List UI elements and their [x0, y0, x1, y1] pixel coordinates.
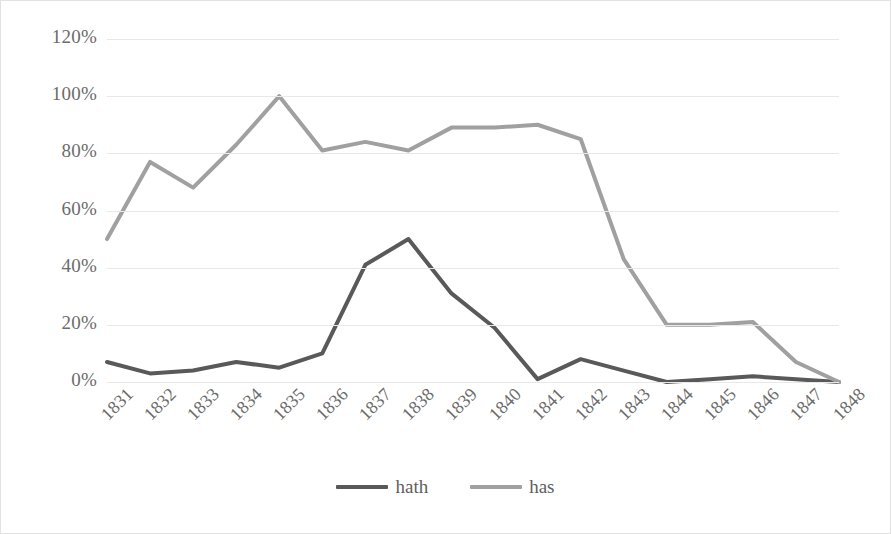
legend-item-has[interactable]: has — [470, 477, 554, 496]
gridline-20 — [107, 325, 839, 326]
chart-legend: hathhas — [1, 477, 890, 496]
x-axis-tick-label: 1837 — [355, 384, 396, 425]
gridline-80 — [107, 153, 839, 154]
x-axis: 1831183218331834183518361837183818391840… — [107, 384, 839, 474]
legend-label-hath: hath — [395, 477, 428, 496]
gridline-120 — [107, 39, 839, 40]
legend-swatch-has — [470, 485, 522, 489]
plot-area — [107, 39, 839, 382]
x-axis-tick-label: 1841 — [528, 384, 569, 425]
x-axis-tick-label: 1839 — [441, 384, 482, 425]
x-axis-tick-label: 1848 — [829, 384, 870, 425]
chart-frame: 0%20%40%60%80%100%120% 18311832183318341… — [0, 0, 891, 534]
gridline-40 — [107, 268, 839, 269]
x-axis-tick-label: 1844 — [657, 384, 698, 425]
y-axis-tick-label: 0% — [17, 369, 97, 391]
series-line-hath — [107, 239, 839, 382]
x-axis-tick-label: 1835 — [269, 384, 310, 425]
x-axis-tick-label: 1846 — [743, 384, 784, 425]
gridline-0 — [107, 382, 839, 383]
x-axis-tick-label: 1832 — [140, 384, 181, 425]
x-axis-tick-label: 1838 — [398, 384, 439, 425]
legend-item-hath[interactable]: hath — [336, 477, 428, 496]
y-axis-tick-label: 60% — [17, 198, 97, 220]
x-axis-tick-label: 1847 — [786, 384, 827, 425]
x-axis-tick-label: 1831 — [97, 384, 138, 425]
x-axis-tick-label: 1836 — [312, 384, 353, 425]
x-axis-tick-label: 1834 — [226, 384, 267, 425]
x-axis-tick-label: 1842 — [571, 384, 612, 425]
x-axis-tick-label: 1845 — [700, 384, 741, 425]
y-axis-tick-label: 100% — [17, 83, 97, 105]
x-axis-tick-label: 1840 — [484, 384, 525, 425]
y-axis-tick-label: 120% — [17, 26, 97, 48]
y-axis-tick-label: 40% — [17, 255, 97, 277]
legend-label-has: has — [529, 477, 554, 496]
series-line-has — [107, 96, 839, 382]
gridline-60 — [107, 211, 839, 212]
x-axis-tick-label: 1843 — [614, 384, 655, 425]
y-axis-tick-label: 20% — [17, 312, 97, 334]
y-axis: 0%20%40%60%80%100%120% — [11, 39, 97, 382]
gridline-100 — [107, 96, 839, 97]
y-axis-tick-label: 80% — [17, 140, 97, 162]
legend-swatch-hath — [336, 485, 388, 489]
x-axis-tick-label: 1833 — [183, 384, 224, 425]
